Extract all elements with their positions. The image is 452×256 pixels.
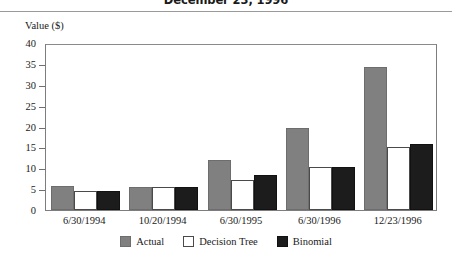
y-axis-tick-label: 35 xyxy=(0,60,36,70)
legend-swatch-icon xyxy=(277,236,288,247)
bar-binomial[interactable] xyxy=(254,175,277,210)
x-axis-tick-label: 6/30/1994 xyxy=(45,215,123,226)
legend-swatch-icon xyxy=(120,236,131,247)
x-axis-tick-label: 6/30/1996 xyxy=(280,215,358,226)
bar-decision[interactable] xyxy=(152,187,175,210)
legend-label: Actual xyxy=(136,236,164,247)
bar-actual[interactable] xyxy=(286,128,309,210)
bar-group xyxy=(129,45,198,210)
chart-legend: ActualDecision TreeBinomial xyxy=(0,236,452,247)
bar-group xyxy=(208,45,277,210)
y-axis-tick-label: 30 xyxy=(0,81,36,91)
legend-swatch-icon xyxy=(183,236,194,247)
chart-header: December 23, 1996 xyxy=(0,0,452,14)
bar-binomial[interactable] xyxy=(175,187,198,210)
bar-actual[interactable] xyxy=(51,186,74,210)
bars-container xyxy=(46,45,436,210)
bar-binomial[interactable] xyxy=(410,144,433,210)
header-divider xyxy=(0,11,452,12)
legend-item-decision[interactable]: Decision Tree xyxy=(183,236,258,247)
legend-item-binomial[interactable]: Binomial xyxy=(277,236,332,247)
page-title: December 23, 1996 xyxy=(0,0,452,7)
legend-item-actual[interactable]: Actual xyxy=(120,236,164,247)
y-axis-tick-label: 15 xyxy=(0,143,36,153)
y-axis-label: Value ($) xyxy=(25,20,64,31)
x-axis-tick-label: 10/20/1994 xyxy=(123,215,201,226)
bar-group xyxy=(364,45,433,210)
bar-actual[interactable] xyxy=(208,160,231,210)
y-axis-tick-label: 40 xyxy=(0,39,36,49)
bar-decision[interactable] xyxy=(231,180,254,210)
bar-actual[interactable] xyxy=(364,67,387,210)
bar-group xyxy=(51,45,120,210)
plot-area xyxy=(45,44,437,211)
bar-decision[interactable] xyxy=(74,191,97,210)
y-axis-tick-label: 25 xyxy=(0,102,36,112)
legend-label: Binomial xyxy=(293,236,332,247)
x-axis-tick-label: 6/30/1995 xyxy=(202,215,280,226)
bar-decision[interactable] xyxy=(387,147,410,210)
y-axis-tick-label: 5 xyxy=(0,185,36,195)
bar-group xyxy=(286,45,355,210)
legend-label: Decision Tree xyxy=(199,236,258,247)
bar-decision[interactable] xyxy=(309,167,332,210)
bar-actual[interactable] xyxy=(129,187,152,210)
y-axis-tick-label: 0 xyxy=(0,206,36,216)
x-axis-tick-label: 12/23/1996 xyxy=(359,215,437,226)
y-axis-tick-label: 20 xyxy=(0,123,36,133)
bar-binomial[interactable] xyxy=(332,167,355,210)
y-axis-tick-label: 10 xyxy=(0,164,36,174)
bar-binomial[interactable] xyxy=(97,191,120,210)
